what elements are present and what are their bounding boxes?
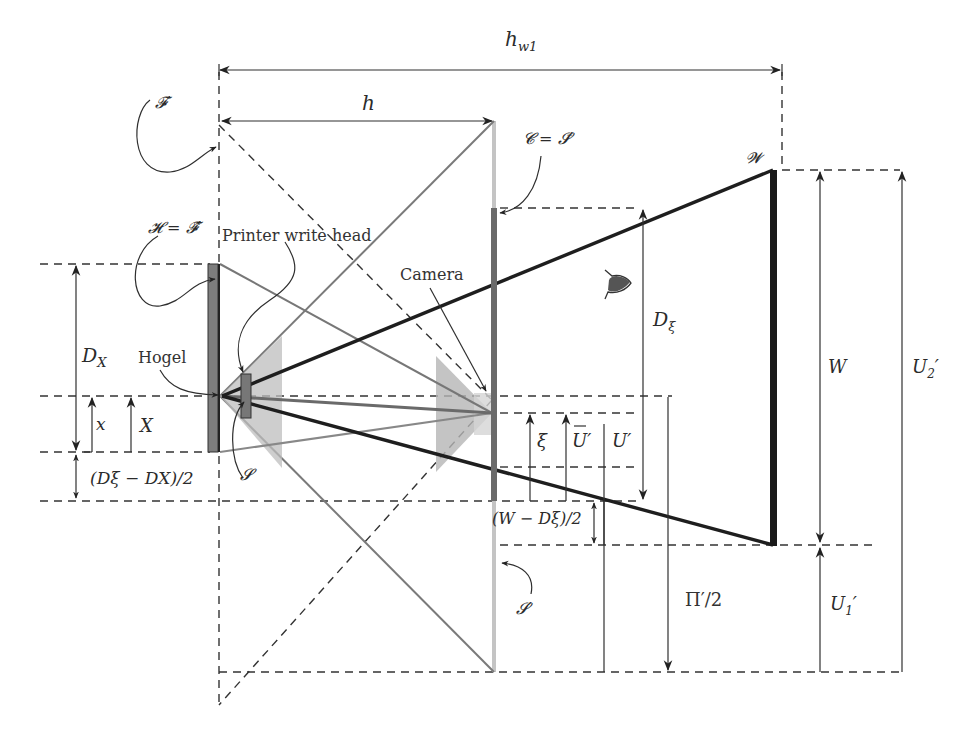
label-S: 𝓢 — [240, 465, 257, 484]
hologram-plate — [208, 264, 218, 452]
dimension-arrows — [76, 64, 902, 672]
label-camera: Camera — [400, 265, 464, 284]
label-Dxi: Dξ — [652, 308, 676, 334]
eye-icon — [605, 270, 631, 299]
viewing-window-W — [770, 170, 777, 546]
label-W: W — [828, 356, 848, 377]
label-U2-prime: U2′ — [912, 356, 939, 381]
label-Dxi-minus-DX-over-2: (Dξ − DX)/2 — [90, 468, 194, 488]
holographic-printing-geometry-diagram: hw1 h 𝓕′ 𝓗 = 𝓕̂′ Printer write head Hoge… — [0, 0, 978, 730]
label-printer-write-head: Printer write head — [222, 226, 371, 245]
label-DX: DX — [81, 344, 107, 370]
F-prime-leader — [137, 100, 216, 172]
label-X: X — [138, 415, 154, 436]
frustum-line-top — [220, 121, 494, 396]
C-leader — [500, 156, 541, 213]
camera-plane-C — [491, 208, 497, 501]
label-hw1: hw1 — [505, 27, 537, 54]
label-x: x — [96, 414, 106, 434]
printer-write-head — [241, 374, 251, 418]
H-leader — [135, 236, 215, 306]
label-U-prime: U′ — [612, 430, 631, 451]
label-xi: ξ — [537, 430, 548, 451]
label-W-script: 𝓦 — [746, 149, 765, 167]
ray-hogel-to-W-top — [222, 170, 773, 396]
label-h: h — [362, 91, 375, 115]
label-Pi-prime-over-2: Π′/2 — [685, 589, 722, 610]
S-prime-leader — [502, 563, 532, 594]
label-U1-prime: U1′ — [830, 593, 857, 618]
label-F-prime: 𝓕′ — [155, 93, 173, 112]
label-W-minus-Dxi-over-2: (W − Dξ)/2 — [492, 509, 582, 528]
label-hogel: Hogel — [138, 348, 186, 367]
label-S-prime: 𝓢′ — [516, 599, 533, 618]
label-C-equals-S-bar-prime: 𝓒 = 𝓢̄′ — [523, 129, 575, 148]
label-H-equals-F-hat-prime: 𝓗 = 𝓕̂′ — [148, 218, 204, 237]
label-U-bar-prime: U′ — [572, 430, 591, 451]
